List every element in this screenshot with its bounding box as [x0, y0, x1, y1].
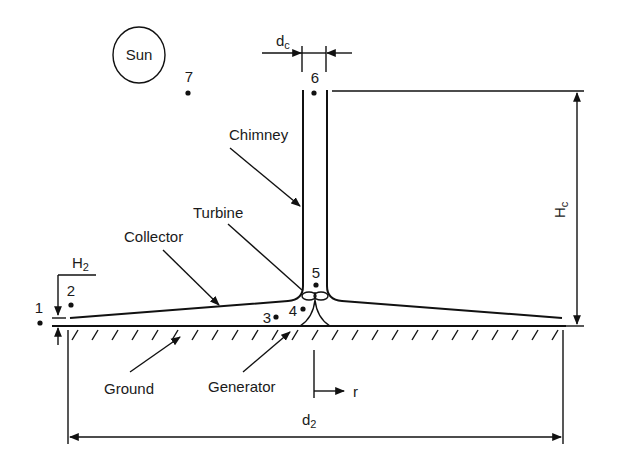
chimney-label: Chimney: [229, 126, 289, 143]
ground: [52, 326, 566, 340]
chimney-height-dimension: Hc: [332, 91, 584, 326]
turbine-callout: Turbine: [193, 204, 302, 290]
point-5-label: 5: [312, 264, 320, 281]
point-7: 7: [185, 68, 193, 96]
ground-callout: Ground: [104, 337, 180, 397]
chimney-diameter-label: dc: [276, 32, 290, 51]
point-1-label: 1: [35, 299, 43, 316]
point-2-label: 2: [67, 282, 75, 299]
point-3-label: 3: [263, 309, 271, 326]
point-6-label: 6: [311, 69, 319, 86]
sun: Sun: [113, 27, 165, 83]
collector-callout: Collector: [124, 228, 219, 305]
point-1: 1: [35, 299, 43, 326]
chimney-callout: Chimney: [229, 126, 300, 206]
point-2: 2: [67, 282, 75, 308]
point-7-label: 7: [185, 68, 193, 85]
ground-hatching: [72, 330, 558, 340]
generator-label: Generator: [208, 378, 276, 395]
point-3: 3: [263, 309, 279, 326]
point-5: 5: [312, 264, 320, 288]
sun-label: Sun: [126, 46, 153, 63]
turbine-label: Turbine: [193, 204, 243, 221]
collector-diameter-label: d2: [302, 411, 316, 430]
point-4-label: 4: [289, 302, 297, 319]
solar-chimney-diagram: Sun 7 dc 6 Hc Chimney: [0, 0, 625, 473]
collector-height-label: H2: [72, 254, 89, 273]
point-4: 4: [289, 302, 306, 319]
chimney-diameter-dimension: dc: [262, 32, 352, 72]
collector-height-dimension: H2: [52, 254, 96, 345]
chimney-height-label: Hc: [551, 201, 570, 218]
radial-axis: r: [314, 350, 358, 400]
generator-callout: Generator: [208, 332, 290, 395]
radial-axis-label: r: [353, 383, 358, 400]
ground-label: Ground: [104, 380, 154, 397]
point-6: 6: [311, 69, 319, 96]
collector-label: Collector: [124, 228, 183, 245]
